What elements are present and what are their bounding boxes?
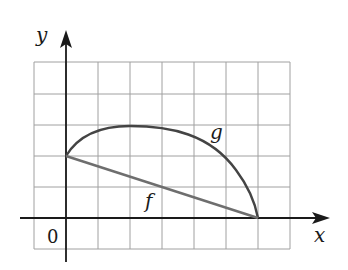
grid xyxy=(34,62,290,249)
y-axis-label: y xyxy=(35,23,48,47)
y-axis xyxy=(60,30,72,262)
x-axis-label: x xyxy=(314,223,325,247)
function-graph: y x 0 g f xyxy=(0,0,348,270)
f-label: f xyxy=(143,189,156,213)
origin-label: 0 xyxy=(47,226,58,247)
g-label: g xyxy=(210,120,223,144)
